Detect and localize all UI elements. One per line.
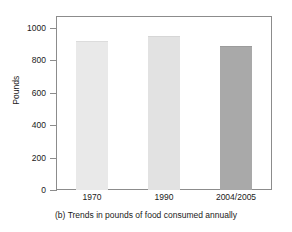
y-axis-tick (50, 190, 56, 191)
bar-2004-2005 (220, 46, 252, 190)
figure-caption: (b) Trends in pounds of food consumed an… (0, 211, 292, 220)
bar-1970 (76, 41, 108, 190)
plot-area (56, 28, 272, 190)
x-axis-tick-label: 1970 (83, 193, 102, 202)
y-axis-title: Pounds (12, 50, 21, 130)
x-axis-tick-label: 2004/2005 (216, 193, 256, 202)
x-axis-tick-label: 1990 (155, 193, 174, 202)
y-axis-tick-label: 800 (32, 56, 46, 65)
bar-1990 (148, 36, 180, 190)
y-axis-tick-label: 400 (32, 121, 46, 130)
bar-chart-figure: 02004006008001000 Pounds 197019902004/20… (0, 0, 292, 232)
y-axis-tick-label: 1000 (27, 24, 46, 33)
y-axis-tick-label: 0 (41, 186, 46, 195)
y-axis-tick-label: 200 (32, 153, 46, 162)
y-axis-tick-label: 600 (32, 89, 46, 98)
